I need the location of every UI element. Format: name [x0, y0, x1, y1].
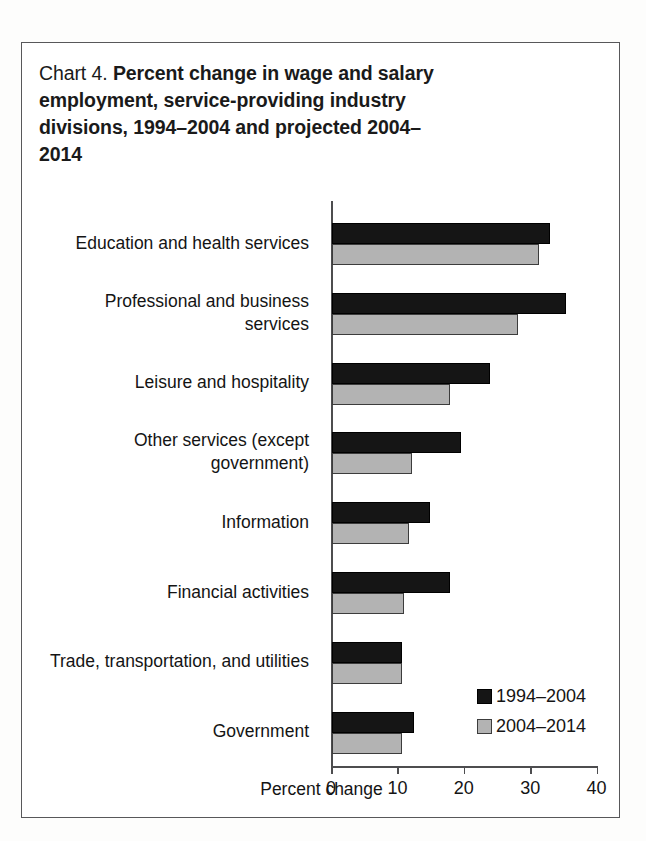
- legend-label: 1994–2004: [496, 686, 586, 707]
- x-tick-mark: [464, 766, 466, 774]
- bar-series2: [332, 663, 402, 684]
- bar-series2: [332, 523, 409, 544]
- x-tick-mark: [530, 766, 532, 774]
- category-label: Government: [22, 720, 318, 743]
- bar-series1: [332, 572, 450, 593]
- bar-series1: [332, 712, 414, 733]
- x-tick-mark: [597, 766, 599, 774]
- category-label: Financial activities: [22, 581, 318, 604]
- bar-series1: [332, 502, 430, 523]
- bar-series2: [332, 244, 539, 265]
- x-tick-mark: [397, 766, 399, 774]
- category-label: Education and health services: [22, 232, 318, 255]
- category-label: Trade, transportation, and utilities: [22, 650, 318, 673]
- bar-series2: [332, 453, 412, 474]
- category-label: Other services (exceptgovernment): [22, 429, 318, 475]
- bar-series2: [332, 384, 450, 405]
- bar-series2: [332, 314, 518, 335]
- category-label: Information: [22, 511, 318, 534]
- category-label: Professional and businessservices: [22, 290, 318, 336]
- bar-series1: [332, 432, 461, 453]
- legend-swatch-icon: [477, 719, 492, 734]
- bar-series2: [332, 733, 402, 754]
- bar-series1: [332, 293, 566, 314]
- legend-item: 2004–2014: [477, 711, 586, 741]
- bar-series2: [332, 593, 404, 614]
- bar-series1: [332, 223, 550, 244]
- legend-swatch-icon: [477, 689, 492, 704]
- legend: 1994–20042004–2014: [477, 681, 586, 741]
- legend-label: 2004–2014: [496, 716, 586, 737]
- bar-series1: [332, 363, 490, 384]
- x-tick-mark: [331, 766, 333, 774]
- category-label: Leisure and hospitality: [22, 371, 318, 394]
- x-axis-title: Percent change: [22, 779, 621, 800]
- bar-series1: [332, 642, 402, 663]
- legend-item: 1994–2004: [477, 681, 586, 711]
- figure-frame: Chart 4. Percent change in wage and sala…: [21, 42, 620, 818]
